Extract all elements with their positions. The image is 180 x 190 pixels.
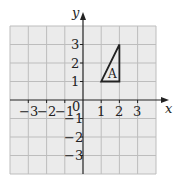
y-tick-label-1: 1 bbox=[71, 74, 79, 89]
x-tick-label-neg3: −3 bbox=[19, 104, 38, 119]
x-tick-label-neg2: −2 bbox=[37, 104, 56, 119]
y-tick-label-neg3: −3 bbox=[64, 148, 83, 163]
y-tick-label-2: 2 bbox=[71, 56, 79, 71]
x-axis-label: x bbox=[165, 101, 173, 116]
y-tick-label-neg1: −1 bbox=[64, 111, 83, 126]
x-tick-label-1: 1 bbox=[97, 104, 105, 119]
y-tick-label-neg2: −2 bbox=[64, 130, 83, 145]
x-tick-label-3: 3 bbox=[133, 104, 141, 119]
y-axis-arrow-icon bbox=[80, 12, 86, 20]
triangle-label: A bbox=[107, 67, 117, 81]
y-tick-label-3: 3 bbox=[71, 37, 79, 52]
x-tick-label-2: 2 bbox=[115, 104, 123, 119]
coordinate-grid: y x −3 −2 −1 0 1 2 3 3 2 1 −1 −2 −3 A bbox=[0, 0, 180, 190]
y-axis-label: y bbox=[71, 5, 80, 20]
